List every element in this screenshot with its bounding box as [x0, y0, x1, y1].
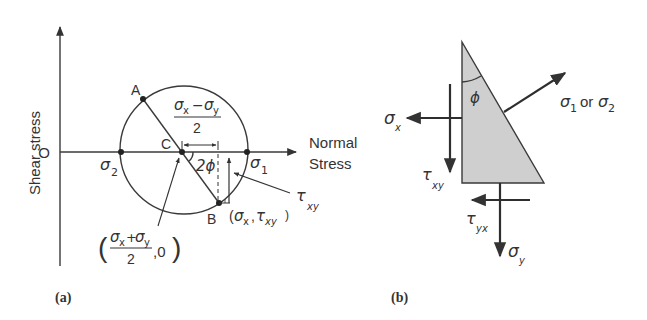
svg-text:σ: σ [100, 155, 111, 174]
sigma-x-label: σ x [384, 108, 401, 133]
svg-text:2: 2 [193, 120, 201, 136]
svg-text:): ) [172, 232, 181, 263]
svg-text:xy: xy [264, 216, 278, 227]
panel-b-stress-element: ϕ σ 1 or σ 2 σ x τ xy σ y τ [384, 42, 615, 306]
phi-label: ϕ [470, 89, 480, 107]
sigma1-label: σ 1 [250, 153, 268, 177]
tau-yx-label: τ yx [466, 209, 488, 234]
svg-text:xy: xy [306, 201, 320, 212]
angle-2phi-label: 2ϕ [196, 157, 216, 175]
sigma-y-label: σ y [508, 241, 526, 266]
svg-text:τ: τ [422, 165, 432, 184]
mohr-circle-figure: Shear stress O Normal Stress A C B σ 2 σ… [0, 0, 647, 320]
tau-xy-label-b: τ xy [422, 165, 445, 191]
svg-text:1: 1 [261, 164, 268, 177]
tau-xy-label: τ xy [296, 186, 320, 212]
svg-text:2: 2 [111, 166, 118, 179]
x-axis-label-line2: Stress [309, 155, 352, 172]
svg-text:σ: σ [250, 153, 261, 172]
svg-text:x: x [243, 216, 249, 227]
point-A-dot [140, 96, 146, 102]
triangular-element [462, 42, 544, 183]
svg-text:x: x [394, 122, 401, 133]
panel-a-mohr-circle: Shear stress O Normal Stress A C B σ 2 σ… [26, 27, 357, 306]
svg-text:2: 2 [127, 251, 135, 267]
sigma2-label: σ 2 [100, 155, 118, 179]
point-A-label: A [131, 82, 141, 98]
svg-text:(: ( [98, 232, 108, 263]
point-B-coordinates: ( σ x , τ xy ) [229, 207, 289, 227]
svg-text:y: y [213, 105, 219, 116]
svg-text:): ) [285, 208, 289, 222]
svg-text:−: − [192, 97, 204, 113]
angle-arc-2phi [189, 152, 193, 161]
point-B-label: B [207, 211, 216, 227]
origin-label: O [38, 144, 50, 161]
svg-text:x: x [183, 105, 189, 116]
svg-text:x: x [119, 237, 125, 248]
half-difference-fraction: σ x − σ y 2 [174, 96, 221, 136]
svg-text:τ: τ [296, 186, 306, 205]
panel-b-caption: (b) [391, 290, 408, 306]
svg-text:τ: τ [466, 209, 476, 228]
svg-text:,0: ,0 [153, 243, 166, 260]
svg-text:xy: xy [431, 180, 445, 191]
center-leader-arrow [158, 158, 179, 226]
principal-stress-label: σ 1 or σ 2 [560, 92, 615, 115]
svg-text:yx: yx [475, 223, 488, 234]
svg-text:or: or [580, 93, 593, 110]
x-axis-label-line1: Normal [309, 134, 357, 151]
svg-text:2: 2 [608, 102, 615, 115]
svg-text:1: 1 [570, 102, 577, 115]
panel-a-caption: (a) [55, 290, 72, 306]
svg-text:y: y [518, 255, 526, 266]
svg-text:y: y [144, 237, 150, 248]
principal-stress-arrow [504, 73, 565, 112]
point-sigma2-dot [118, 149, 124, 155]
point-C-label: C [161, 136, 171, 152]
center-coordinates-label: ( σ x + σ y 2 ,0 ) [98, 228, 181, 267]
svg-text:,: , [251, 208, 255, 224]
